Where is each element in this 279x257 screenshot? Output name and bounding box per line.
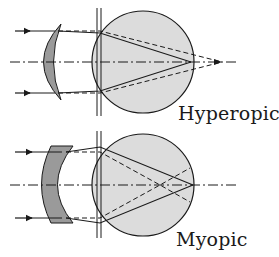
myopic-label: Myopic — [176, 228, 248, 250]
hyperopic-panel — [10, 8, 236, 116]
myopic-panel — [10, 131, 236, 238]
focal-point-arrow-icon — [214, 59, 222, 65]
hyperopic-label: Hyperopic — [178, 102, 279, 124]
eye-correction-diagram — [0, 0, 279, 257]
